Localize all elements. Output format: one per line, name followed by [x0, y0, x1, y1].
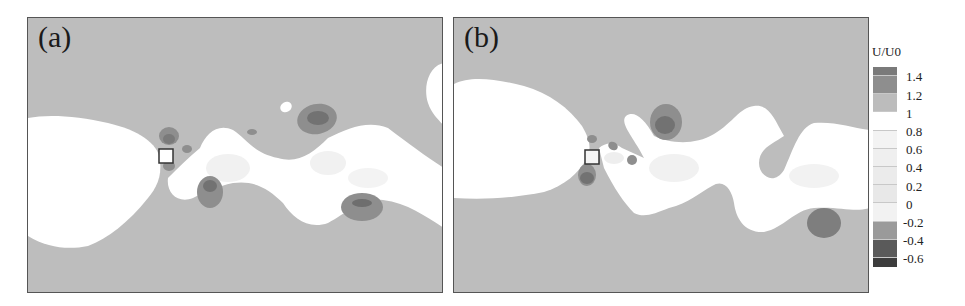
- panel-label-a: (a): [38, 22, 71, 52]
- colorbar: [873, 67, 897, 267]
- square-cylinder: [585, 150, 599, 164]
- panel-b: (b): [453, 17, 869, 293]
- colorbar-tick: 1.2: [906, 89, 922, 102]
- colorbar-band: [873, 240, 897, 258]
- colorbar-tick: 1: [906, 107, 913, 120]
- panel-label-b: (b): [464, 22, 499, 52]
- colorbar-band: [873, 258, 897, 267]
- colorbar-band: [873, 67, 897, 76]
- panel-a: (a): [27, 17, 443, 293]
- colorbar-tick: -0.6: [903, 252, 924, 265]
- colorbar-band: [873, 76, 897, 94]
- colorbar-tick: -0.2: [903, 216, 924, 229]
- colorbar-tick: 0.2: [906, 180, 922, 193]
- colorbar-tick: 0.6: [906, 143, 922, 156]
- colorbar-band: [873, 222, 897, 240]
- colorbar-band: [873, 167, 897, 185]
- contour-plot-a: [28, 18, 443, 293]
- colorbar-tick: 0.4: [906, 161, 922, 174]
- colorbar-title: U/U0: [872, 44, 901, 60]
- colorbar-tick: 0: [906, 198, 913, 211]
- colorbar-band: [873, 112, 897, 130]
- colorbar-band: [873, 131, 897, 149]
- colorbar-tick: 0.8: [906, 125, 922, 138]
- colorbar-band: [873, 149, 897, 167]
- colorbar-band: [873, 185, 897, 203]
- colorbar-tick: -0.4: [903, 234, 924, 247]
- square-cylinder: [159, 149, 173, 163]
- colorbar-band: [873, 203, 897, 221]
- colorbar-band: [873, 94, 897, 112]
- colorbar-tick: 1.4: [906, 70, 922, 83]
- contour-plot-b: [454, 18, 869, 293]
